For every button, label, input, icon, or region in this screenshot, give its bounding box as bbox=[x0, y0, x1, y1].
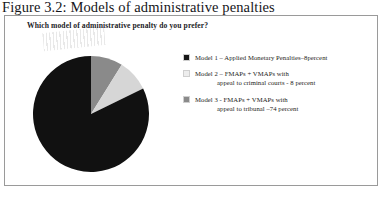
legend-swatch-model-2 bbox=[183, 70, 190, 77]
legend-label-model-3-line1: Model 3 - FMAPs + VMAPs with bbox=[195, 96, 288, 103]
legend-label-model-3-line2: appeal to tribunal –74 percent bbox=[195, 105, 298, 112]
legend-label-model-1: Model 1 – Applied Monetary Penalties–8pe… bbox=[195, 54, 327, 61]
legend-swatch-model-3 bbox=[183, 96, 190, 103]
pie-chart bbox=[21, 28, 161, 176]
legend-swatch-model-1 bbox=[183, 54, 190, 61]
legend-item-model-2[interactable]: Model 2 – FMAPs + VMAPs with appeal to c… bbox=[183, 69, 373, 87]
legend-label-model-2-line1: Model 2 – FMAPs + VMAPs with bbox=[195, 70, 289, 77]
legend-item-model-1[interactable]: Model 1 – Applied Monetary Penalties–8pe… bbox=[183, 53, 373, 62]
legend-item-model-3[interactable]: Model 3 - FMAPs + VMAPs with appeal to t… bbox=[183, 95, 373, 113]
legend-label-model-2-line2: appeal to criminal courts - 8 percent bbox=[195, 79, 315, 86]
figure-caption: Figure 3.2: Models of administrative pen… bbox=[2, 0, 275, 16]
chart-frame: Which model of administrative penalty do… bbox=[4, 15, 378, 186]
pie-chart-svg bbox=[21, 28, 161, 176]
chart-legend: Model 1 – Applied Monetary Penalties–8pe… bbox=[183, 53, 373, 120]
